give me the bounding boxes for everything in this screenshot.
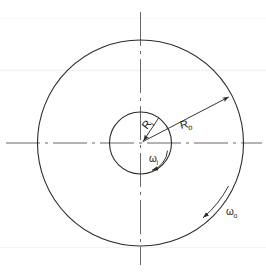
outer-radius-subscript: o [187, 123, 193, 133]
inner-omega-subscript: i [156, 159, 158, 166]
outer-angular-velocity-label: ω o [226, 206, 237, 219]
inner-radius-label: R i [139, 117, 156, 133]
inner-angular-velocity-label: ω i [149, 153, 158, 166]
outer-radius-label: R o [179, 117, 193, 134]
figure-canvas: R i R o ω i ω o [0, 0, 266, 275]
outer-omega-subscript: o [233, 212, 237, 219]
concentric-cylinders-diagram: R i R o ω i ω o [0, 0, 266, 275]
